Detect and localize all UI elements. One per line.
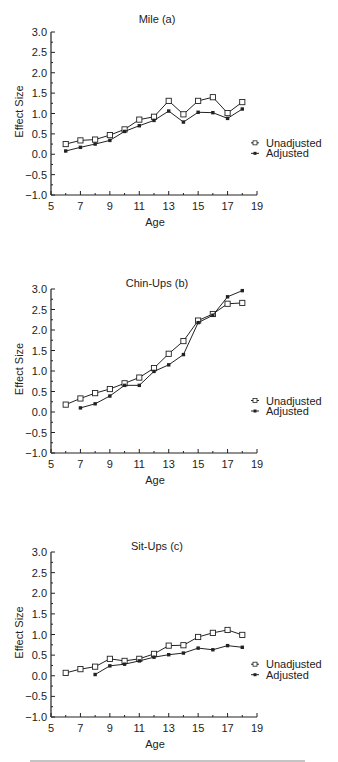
y-tick-label: 1.0	[32, 629, 47, 641]
legend-label-adjusted: Adjusted	[266, 405, 309, 417]
y-tick-label: 0.5	[32, 386, 47, 398]
data-point-open-square	[93, 391, 98, 396]
x-tick-label: 5	[48, 458, 54, 470]
data-point-open-square	[240, 99, 245, 104]
data-point-filled-square	[226, 295, 229, 298]
x-tick-label: 19	[251, 722, 263, 734]
y-tick-label: 1.5	[32, 608, 47, 620]
data-point-open-square	[166, 98, 171, 103]
data-point-filled-square	[138, 659, 141, 662]
data-point-filled-square	[182, 651, 185, 654]
data-point-open-square	[78, 396, 83, 401]
x-tick-label: 11	[134, 722, 145, 734]
y-tick-label: −0.5	[25, 169, 47, 181]
data-point-open-square	[240, 632, 245, 637]
y-tick-label: −1.0	[25, 711, 47, 723]
data-point-open-square	[181, 112, 186, 117]
x-tick-label: 9	[107, 722, 113, 734]
data-point-filled-square	[182, 353, 185, 356]
y-tick-label: 3.0	[32, 546, 47, 558]
x-tick-label: 17	[221, 722, 233, 734]
data-point-open-square	[151, 114, 156, 119]
y-tick-label: 2.0	[32, 587, 47, 599]
legend-open-square-icon	[253, 141, 257, 145]
data-point-open-square	[225, 301, 230, 306]
data-point-open-square	[63, 141, 68, 146]
x-tick-label: 13	[163, 200, 175, 212]
y-tick-label: 2.5	[32, 46, 47, 58]
x-tick-label: 11	[134, 458, 145, 470]
y-tick-label: −0.5	[25, 427, 47, 439]
chart-panel-2: Sit-Ups (c)3.02.52.01.51.00.50.0−0.5−1.0…	[13, 540, 322, 750]
x-tick-label: 15	[192, 458, 204, 470]
figure: Mile (a)3.02.52.01.51.00.50.0−0.5−1.0579…	[0, 0, 338, 762]
data-point-filled-square	[196, 111, 199, 114]
data-point-filled-square	[138, 124, 141, 127]
x-tick-label: 7	[77, 722, 83, 734]
y-tick-label: 2.5	[32, 567, 47, 579]
data-point-filled-square	[226, 644, 229, 647]
data-point-open-square	[166, 643, 171, 648]
data-point-open-square	[181, 338, 186, 343]
data-point-open-square	[78, 667, 83, 672]
x-tick-label: 19	[251, 200, 263, 212]
data-point-filled-square	[167, 653, 170, 656]
x-tick-label: 7	[77, 200, 83, 212]
chart-title: Sit-Ups (c)	[131, 540, 183, 552]
x-tick-label: 9	[107, 200, 113, 212]
data-point-filled-square	[93, 402, 96, 405]
data-point-filled-square	[196, 321, 199, 324]
data-point-open-square	[196, 98, 201, 103]
data-point-filled-square	[241, 646, 244, 649]
data-point-filled-square	[152, 655, 155, 658]
data-point-open-square	[210, 630, 215, 635]
chart-title: Chin-Ups (b)	[126, 277, 188, 289]
x-axis-label: Age	[145, 738, 165, 750]
x-tick-label: 15	[192, 200, 204, 212]
legend-label-adjusted: Adjusted	[266, 147, 309, 159]
legend-open-square-icon	[253, 399, 257, 403]
y-tick-label: 1.5	[32, 87, 47, 99]
x-tick-label: 7	[77, 458, 83, 470]
data-point-filled-square	[138, 384, 141, 387]
data-point-filled-square	[108, 664, 111, 667]
data-point-filled-square	[93, 142, 96, 145]
y-tick-label: 3.0	[32, 283, 47, 295]
data-point-filled-square	[167, 363, 170, 366]
data-point-open-square	[107, 132, 112, 137]
y-tick-label: −0.5	[25, 690, 47, 702]
y-axis-label: Effect Size	[13, 85, 25, 137]
data-point-open-square	[107, 386, 112, 391]
data-point-open-square	[225, 627, 230, 632]
data-point-open-square	[93, 664, 98, 669]
chart-panel-1: Chin-Ups (b)3.02.52.01.51.00.50.0−0.5−1.…	[13, 277, 322, 486]
legend-filled-square-icon	[254, 152, 257, 155]
data-point-filled-square	[152, 370, 155, 373]
y-tick-label: 2.0	[32, 324, 47, 336]
data-point-open-square	[137, 375, 142, 380]
y-tick-label: −1.0	[25, 189, 47, 201]
legend-open-square-icon	[253, 662, 257, 666]
data-point-open-square	[181, 643, 186, 648]
y-tick-label: 3.0	[32, 26, 47, 38]
x-axis-label: Age	[145, 216, 165, 228]
data-point-filled-square	[167, 109, 170, 112]
data-point-filled-square	[79, 406, 82, 409]
data-point-filled-square	[182, 120, 185, 123]
data-point-open-square	[93, 137, 98, 142]
x-tick-label: 17	[221, 200, 233, 212]
legend-label-adjusted: Adjusted	[266, 669, 309, 681]
data-point-filled-square	[241, 107, 244, 110]
data-point-filled-square	[79, 146, 82, 149]
data-point-filled-square	[64, 149, 67, 152]
legend-filled-square-icon	[254, 410, 257, 413]
series-line-unadjusted	[66, 303, 243, 405]
x-tick-label: 11	[134, 200, 145, 212]
data-point-open-square	[166, 351, 171, 356]
x-tick-label: 13	[163, 458, 175, 470]
data-point-open-square	[63, 670, 68, 675]
data-point-filled-square	[211, 111, 214, 114]
data-point-open-square	[78, 138, 83, 143]
y-tick-label: 1.5	[32, 345, 47, 357]
x-tick-label: 19	[251, 458, 263, 470]
